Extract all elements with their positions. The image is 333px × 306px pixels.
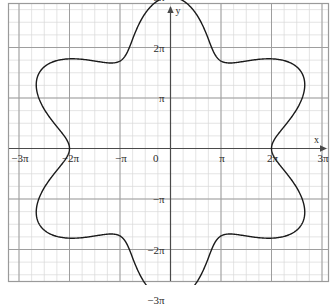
- y-tick-label: 2π: [153, 42, 164, 53]
- y-tick-label: −π: [153, 194, 165, 205]
- x-tick-label: π: [219, 152, 225, 163]
- x-axis-name-label: x: [314, 135, 319, 145]
- y-tick-label: −3π: [147, 295, 164, 306]
- x-tick-label: 2π: [267, 152, 278, 163]
- x-tick-label: −3π: [11, 152, 28, 163]
- y-tick-label: −2π: [147, 244, 164, 255]
- x-tick-label: −π: [115, 152, 127, 163]
- x-tick-label: −2π: [62, 152, 79, 163]
- y-tick-label: 3π: [153, 0, 164, 3]
- y-tick-label: π: [159, 93, 165, 104]
- x-tick-label: 3π: [317, 152, 328, 163]
- plot-background: [0, 0, 333, 285]
- x-tick-label: 0: [153, 152, 159, 163]
- plot-area: −3π−2π−π0π2π3π 3π2ππ−π−2π−3π x y: [0, 0, 333, 285]
- y-axis-name-label: y: [176, 6, 181, 16]
- graph-svg: [0, 0, 333, 285]
